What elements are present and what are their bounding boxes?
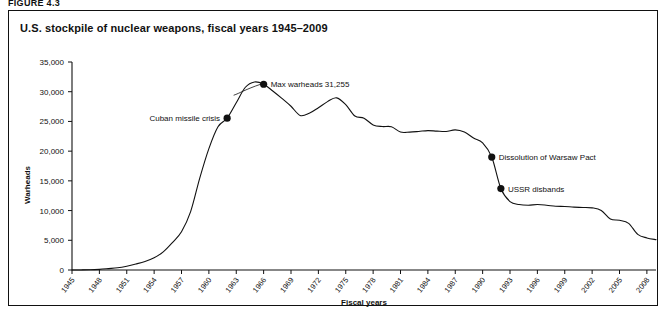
x-axis-tick-label: 1966 (251, 276, 268, 295)
y-axis-tick-label: 35,000 (40, 58, 65, 67)
y-axis-tick-label: 10,000 (40, 207, 65, 216)
data-series-line (72, 82, 656, 270)
annotation-label: Cuban missile crisis (149, 114, 220, 123)
x-axis-tick-label: 1990 (470, 276, 487, 295)
x-axis-tick-label: 1951 (114, 276, 131, 295)
annotation-marker (488, 153, 495, 160)
x-axis-tick-label: 1993 (497, 276, 514, 295)
x-axis-tick-label: 1996 (525, 276, 542, 295)
y-axis-tick-label: 0 (60, 266, 65, 275)
annotation-label: Dissolution of Warsaw Pact (499, 153, 597, 162)
x-axis-tick-label: 1948 (87, 276, 104, 295)
annotation-marker (260, 81, 267, 88)
x-axis-tick-label: 1975 (333, 276, 350, 295)
x-axis-tick-label: 1969 (278, 276, 295, 295)
line-chart: 05,00010,00015,00020,00025,00030,00035,0… (0, 0, 666, 319)
x-axis-tick-label: 1960 (196, 276, 213, 295)
x-axis-tick-label: 1978 (360, 276, 377, 295)
x-axis-tick-label: 2002 (579, 276, 596, 295)
annotation-marker (224, 115, 231, 122)
y-axis-tick-label: 20,000 (40, 147, 65, 156)
x-axis-tick-label: 1984 (415, 276, 432, 295)
x-axis-tick-label: 1945 (59, 276, 76, 295)
annotation-label: Max warheads 31,255 (271, 80, 350, 89)
y-axis-tick-label: 30,000 (40, 88, 65, 97)
x-axis-tick-label: 1981 (388, 276, 405, 295)
annotation-label: USSR disbands (508, 185, 564, 194)
y-axis-title: Warheads (23, 165, 32, 203)
x-axis-tick-label: 1963 (223, 276, 240, 295)
y-axis-tick-label: 25,000 (40, 117, 65, 126)
y-axis-tick-label: 15,000 (40, 177, 65, 186)
x-axis-tick-label: 1999 (552, 276, 569, 295)
chart-canvas: 05,00010,00015,00020,00025,00030,00035,0… (0, 0, 666, 319)
y-axis-tick-label: 5,000 (44, 236, 65, 245)
x-axis-tick-label: 1987 (442, 276, 459, 295)
x-axis-tick-label: 1957 (169, 276, 186, 295)
x-axis-tick-label: 1954 (141, 276, 158, 295)
annotation-marker (497, 185, 504, 192)
x-axis-title: Fiscal years (341, 298, 387, 307)
x-axis-tick-label: 2005 (607, 276, 624, 295)
x-axis-tick-label: 1972 (306, 276, 323, 295)
x-axis-tick-label: 2008 (634, 276, 651, 295)
